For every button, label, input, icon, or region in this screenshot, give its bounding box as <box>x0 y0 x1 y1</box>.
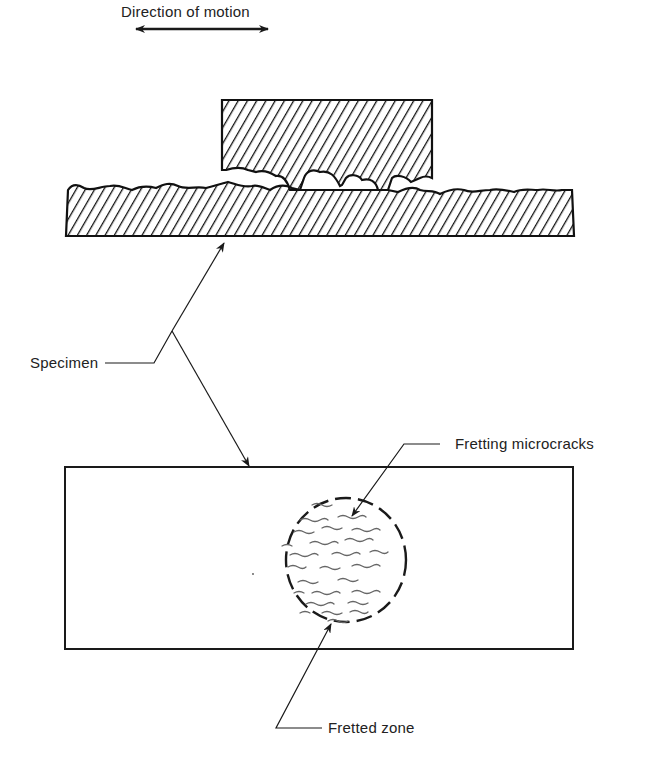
specimen-arrow-lower <box>172 331 249 466</box>
specimen-arrow-upper <box>172 243 224 331</box>
lower-specimen-strip <box>66 182 574 236</box>
upper-contact-block <box>222 100 432 190</box>
microcracks-leader <box>352 444 440 516</box>
specimen-label: Specimen <box>30 354 98 371</box>
fretted-zone-leader <box>276 624 331 728</box>
specimen-plan-view <box>65 467 573 649</box>
stray-dot <box>252 573 254 575</box>
fretted-zone-label: Fretted zone <box>328 719 415 736</box>
motion-label: Direction of motion <box>121 3 250 20</box>
fretting-microcracks-label: Fretting microcracks <box>455 435 594 452</box>
specimen-leader <box>105 331 172 363</box>
fretting-diagram <box>0 0 646 760</box>
